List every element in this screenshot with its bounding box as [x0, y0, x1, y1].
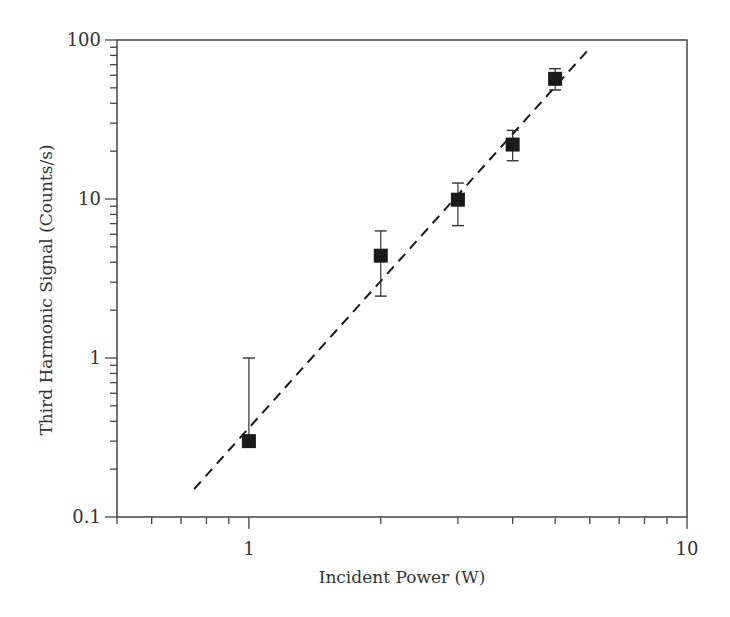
- y-tick-label: 100: [67, 29, 101, 50]
- log-log-chart: 110 0.1110100 Incident Power (W) Third H…: [0, 0, 730, 617]
- square-marker: [506, 138, 520, 152]
- y-axis-title: Third Harmonic Signal (Counts/s): [36, 144, 56, 435]
- x-tick-label: 10: [676, 538, 699, 559]
- plot-frame: [117, 40, 687, 517]
- x-axis-title: Incident Power (W): [319, 567, 486, 587]
- fit-line: [194, 48, 590, 489]
- y-tick-label: 10: [78, 188, 101, 209]
- dashed-fit-line: [194, 48, 590, 489]
- x-axis-ticks: 110: [117, 517, 698, 559]
- square-marker: [242, 434, 256, 448]
- y-tick-label: 1: [90, 347, 101, 368]
- square-marker: [451, 193, 465, 207]
- square-marker: [374, 249, 388, 263]
- x-tick-label: 1: [243, 538, 254, 559]
- data-markers: [242, 72, 562, 448]
- plot-border: [117, 40, 687, 517]
- y-axis-ticks: 0.1110100: [67, 29, 117, 527]
- error-bars: [243, 69, 561, 441]
- square-marker: [548, 72, 562, 86]
- y-tick-label: 0.1: [72, 506, 101, 527]
